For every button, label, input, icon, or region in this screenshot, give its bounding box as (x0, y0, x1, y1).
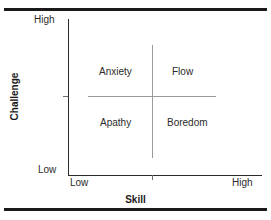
x-axis-high-label: High (232, 177, 253, 188)
quadrant-label-boredom: Boredom (167, 117, 208, 128)
quadrant-label-apathy: Apathy (100, 117, 131, 128)
y-axis-midpoint-tick (63, 96, 68, 97)
y-axis-line (68, 19, 69, 176)
x-axis-midpoint-tick (152, 175, 153, 180)
quadrant-label-flow: Flow (172, 66, 193, 77)
figure-bottom-rule (4, 208, 267, 211)
y-axis-low-label: Low (38, 164, 56, 175)
vertical-divider-line (152, 45, 153, 158)
y-axis-title: Challenge (9, 62, 20, 132)
x-axis-title: Skill (0, 194, 271, 205)
x-axis-line (68, 175, 262, 176)
quadrant-label-anxiety: Anxiety (99, 66, 132, 77)
clipped-title-remnant (0, 0, 271, 5)
y-axis-high-label: High (34, 14, 55, 25)
flow-model-quadrant-figure: Anxiety Flow Apathy Boredom High Low Low… (0, 0, 271, 220)
figure-top-rule (4, 8, 267, 11)
x-axis-low-label: Low (70, 177, 88, 188)
